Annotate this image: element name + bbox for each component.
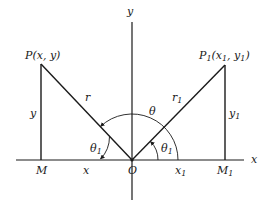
segment-r-label: r: [85, 91, 91, 104]
point-p-label: P(x, y): [24, 49, 60, 62]
theta1-left-arc: [101, 137, 110, 160]
segment-r1-label: r1: [172, 91, 182, 105]
x-axis-label: x: [251, 153, 258, 166]
segment-x1-label: x1: [175, 164, 186, 178]
point-p1-label: P1(x1, y1): [198, 49, 250, 63]
segment-y1-label: y1: [228, 107, 240, 121]
origin-label: O: [128, 164, 137, 177]
point-m-label: M: [35, 164, 48, 177]
y-axis-label: y: [126, 5, 134, 18]
theta1-right-label: θ1: [161, 142, 173, 156]
theta1-right-arc: [151, 142, 159, 161]
segment-x-label: x: [83, 164, 90, 177]
point-m1-label: M1: [216, 164, 233, 178]
theta-label: θ: [149, 105, 156, 118]
theta1-left-label: θ1: [90, 142, 102, 156]
origin-point: [130, 158, 133, 161]
segment-r1: [132, 65, 225, 160]
segment-r: [41, 64, 132, 160]
segment-y-label: y: [29, 107, 37, 120]
polar-coordinates-diagram: y x O P(x, y) M P1(x1, y1) M1 r r1 y y1 …: [0, 0, 270, 201]
